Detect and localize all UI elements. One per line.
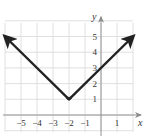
x-tick-label: −5: [16, 118, 26, 128]
x-tick-label: −2: [64, 118, 74, 128]
absolute-value-graph: −5−4−3−2−11 12345 x y: [0, 0, 148, 136]
y-tick-label: 5: [93, 32, 98, 42]
x-tick-label: 1: [115, 118, 120, 128]
y-axis-label: y: [91, 11, 97, 22]
y-tick-label: 4: [93, 47, 98, 57]
x-tick-label: −4: [32, 118, 42, 128]
y-tick-labels: 12345: [93, 32, 98, 105]
y-tick-label: 2: [93, 79, 98, 89]
x-axis-label: x: [137, 117, 143, 128]
y-tick-label: 1: [93, 94, 98, 104]
x-tick-label: −1: [80, 118, 90, 128]
x-tick-label: −3: [48, 118, 58, 128]
x-tick-labels: −5−4−3−2−11: [16, 118, 119, 128]
